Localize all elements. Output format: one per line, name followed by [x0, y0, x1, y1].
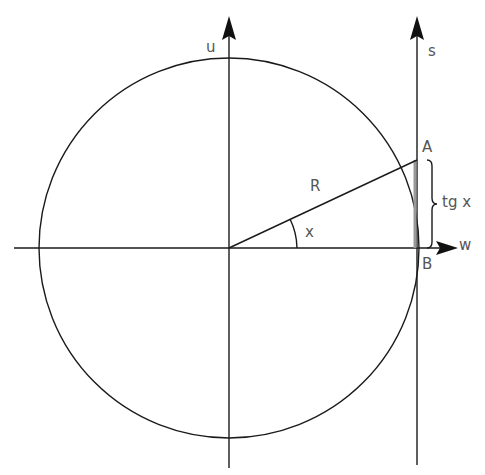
angle-label: x — [305, 223, 314, 241]
tangent-label: tg x — [442, 193, 471, 211]
radius-line — [229, 160, 417, 248]
point-a-label: A — [422, 138, 433, 156]
w-axis-label: w — [459, 236, 471, 254]
radius-label: R — [310, 177, 320, 195]
tangent-brace — [427, 160, 437, 248]
s-axis-label: s — [428, 42, 436, 60]
point-b-label: B — [422, 255, 432, 273]
u-axis-label: u — [206, 38, 216, 56]
tangent-diagram: u s w A B R x tg x — [0, 0, 485, 475]
angle-arc — [290, 219, 297, 248]
